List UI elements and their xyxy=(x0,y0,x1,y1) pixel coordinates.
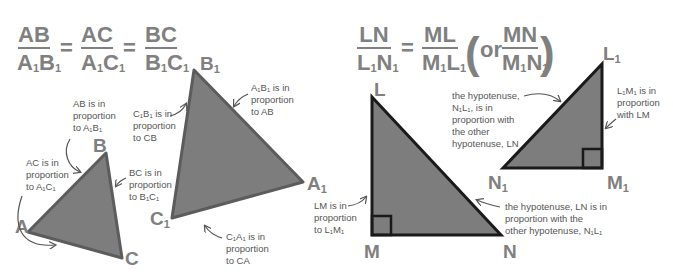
svg-text:AC is in: AC is in xyxy=(26,157,59,168)
fraction-ac-a1c1: AC A1C1 xyxy=(81,22,125,75)
svg-text:to A₁C₁: to A₁C₁ xyxy=(26,181,56,192)
note-a1b1: A₁B₁ is in proportion to AB xyxy=(234,82,294,117)
vertex-label-n1: N1 xyxy=(488,172,508,194)
triangle-a1b1c1: B1 A1 C1 C₁B₁ is in proportion to CB A₁B… xyxy=(133,53,327,266)
svg-text:proportion with: proportion with xyxy=(452,114,514,125)
svg-text:proportion: proportion xyxy=(314,212,357,223)
svg-text:to L₁M₁: to L₁M₁ xyxy=(314,224,344,235)
svg-text:proportion: proportion xyxy=(133,120,176,131)
svg-text:proportion: proportion xyxy=(251,94,294,105)
denominator: A1C1 xyxy=(81,50,125,75)
similar-triangles-diagram: AB A1B1 = AC A1C1 = BC B1C1 LN L1N1 = ML xyxy=(0,0,673,279)
vertex-label-n: N xyxy=(503,241,517,262)
or-text: or xyxy=(480,37,502,62)
numerator: BC xyxy=(145,22,177,47)
svg-text:with LM: with LM xyxy=(616,109,650,120)
left-proportion-formula: AB A1B1 = AC A1C1 = BC B1C1 xyxy=(17,22,189,75)
svg-text:proportion: proportion xyxy=(73,110,116,121)
vertex-label-b1: B1 xyxy=(200,53,220,75)
svg-text:proportion: proportion xyxy=(226,243,269,254)
fraction-bc-b1c1: BC B1C1 xyxy=(145,22,189,75)
svg-text:to AB: to AB xyxy=(251,106,274,117)
svg-text:proportion: proportion xyxy=(26,169,69,180)
svg-text:the other: the other xyxy=(452,126,490,137)
svg-text:the hypotenuse,: the hypotenuse, xyxy=(452,90,520,101)
svg-text:A₁B₁ is in: A₁B₁ is in xyxy=(251,82,290,93)
svg-text:proportion: proportion xyxy=(129,179,172,190)
numerator: LN xyxy=(359,22,388,47)
svg-text:LM is in: LM is in xyxy=(314,200,347,211)
svg-text:L₁M₁ is in: L₁M₁ is in xyxy=(617,85,656,96)
vertex-label-b: B xyxy=(93,135,107,156)
arrow-icon xyxy=(116,178,126,186)
vertex-label-l1: L1 xyxy=(603,43,621,65)
numerator: AB xyxy=(18,22,50,47)
note-c1a1: C₁A₁ is in proportion to CA xyxy=(205,226,269,266)
note-bc: BC is in proportion to B₁C₁ xyxy=(116,167,172,202)
numerator: ML xyxy=(424,22,456,47)
arrow-icon xyxy=(170,104,186,116)
arrow-icon xyxy=(524,94,560,101)
arrow-icon xyxy=(477,200,500,207)
svg-text:to CB: to CB xyxy=(133,132,157,143)
svg-text:AB is in: AB is in xyxy=(73,98,105,109)
fraction-ab-a1b1: AB A1B1 xyxy=(17,22,61,75)
numerator: AC xyxy=(81,22,113,47)
svg-text:BC is in: BC is in xyxy=(129,167,162,178)
arrow-icon xyxy=(606,119,616,128)
denominator: M1L1 xyxy=(422,50,466,75)
svg-text:to A₁B₁: to A₁B₁ xyxy=(73,122,102,133)
vertex-label-m1: M1 xyxy=(607,172,629,194)
svg-text:to CA: to CA xyxy=(226,255,250,266)
note-l1m1: L₁M₁ is in proportion with LM xyxy=(606,85,660,128)
svg-text:C₁B₁ is in: C₁B₁ is in xyxy=(133,108,172,119)
vertex-label-l: L xyxy=(374,79,386,100)
arrow-icon xyxy=(234,94,248,106)
right-proportion-formula: LN L1N1 = ML M1L1 ( or MN M1N1 ) xyxy=(357,22,555,77)
triangle-shape xyxy=(503,64,602,168)
denominator: L1N1 xyxy=(357,50,399,75)
right-triangle-l1m1n1: L1 N1 M1 the hypotenuse, N₁L₁, is in pro… xyxy=(452,43,660,194)
arrow-icon xyxy=(205,226,222,238)
equals-sign: = xyxy=(60,35,73,60)
equals-sign: = xyxy=(123,35,136,60)
numerator: MN xyxy=(503,22,537,47)
vertex-label-a1: A1 xyxy=(307,173,327,195)
svg-text:other hypotenuse, N₁L₁: other hypotenuse, N₁L₁ xyxy=(505,225,602,236)
svg-text:to B₁C₁: to B₁C₁ xyxy=(129,191,159,202)
equals-sign: = xyxy=(401,35,414,60)
arrow-icon xyxy=(66,139,80,172)
note-c1b1: C₁B₁ is in proportion to CB xyxy=(133,104,186,143)
svg-text:proportion with the: proportion with the xyxy=(505,213,583,224)
fraction-ln-l1n1: LN L1N1 xyxy=(357,22,399,75)
fraction-ml-m1l1: ML M1L1 xyxy=(422,22,466,75)
open-parenthesis: ( xyxy=(465,28,480,77)
svg-text:hypotenuse, LN: hypotenuse, LN xyxy=(452,138,519,149)
svg-text:the hypotenuse, LN is in: the hypotenuse, LN is in xyxy=(505,201,607,212)
denominator: B1C1 xyxy=(145,50,189,75)
vertex-label-c: C xyxy=(125,248,139,269)
arrow-icon xyxy=(348,197,366,206)
svg-text:C₁A₁ is in: C₁A₁ is in xyxy=(226,231,265,242)
note-lm: LM is in proportion to L₁M₁ xyxy=(314,197,366,235)
svg-text:proportion: proportion xyxy=(617,97,660,108)
close-parenthesis: ) xyxy=(540,28,555,77)
denominator: A1B1 xyxy=(17,50,61,75)
vertex-label-c1: C1 xyxy=(150,208,170,230)
vertex-label-m: M xyxy=(364,241,380,262)
svg-text:N₁L₁, is in: N₁L₁, is in xyxy=(452,102,493,113)
